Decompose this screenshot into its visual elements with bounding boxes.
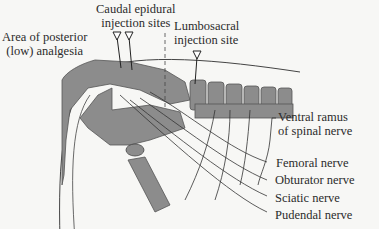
ventral-ramus-label: Ventral ramus of spinal nerve — [278, 110, 352, 138]
caudal-label-line2: injection sites — [96, 16, 176, 30]
obturator-nerve-label: Obturator nerve — [275, 173, 354, 187]
pudendal-nerve-label: Pudendal nerve — [275, 208, 352, 222]
lumbo-label-line2: injection site — [174, 33, 239, 47]
area-label-line1: Area of posterior — [2, 30, 87, 44]
caudal-epidural-label: Caudal epidural injection sites — [96, 2, 176, 30]
caudal-label-line1: Caudal epidural — [96, 2, 176, 16]
lumbosacral-label: Lumbosacral injection site — [174, 19, 239, 47]
ventral-label-line1: Ventral ramus — [278, 110, 352, 124]
area-label-line2: (low) analgesia — [2, 44, 87, 58]
analgesia-area-label: Area of posterior (low) analgesia — [2, 30, 87, 58]
diagram-canvas: Caudal epidural injection sites Area of … — [0, 0, 379, 229]
sciatic-nerve-label: Sciatic nerve — [275, 191, 340, 205]
ventral-label-line2: of spinal nerve — [278, 124, 352, 138]
lumbo-label-line1: Lumbosacral — [174, 19, 239, 33]
femoral-nerve-label: Femoral nerve — [276, 156, 349, 170]
